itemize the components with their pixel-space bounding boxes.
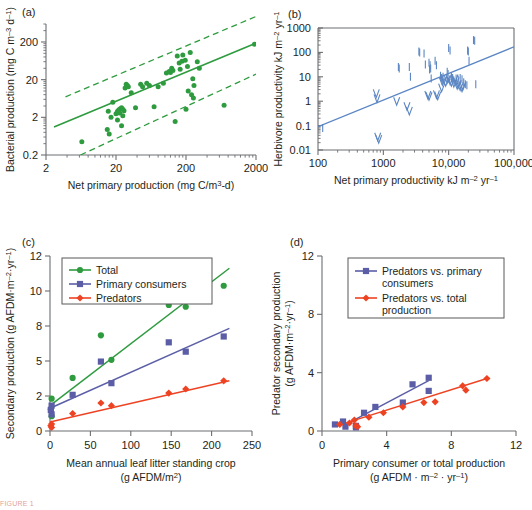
legend-label-c: Primary consumers bbox=[96, 278, 186, 290]
y-axis-title-c: Secondary production (g AFDM·m–2·yr–1) bbox=[4, 248, 16, 439]
y-tick-label-c: 10 bbox=[30, 285, 42, 297]
y-tick-label-c: 2 bbox=[36, 390, 42, 402]
x-tick-label-d: 8 bbox=[448, 439, 454, 451]
x-tick-label-c: 100 bbox=[122, 439, 140, 451]
x-tick-label-c: 200 bbox=[202, 439, 220, 451]
x-tick-label-a: 2000 bbox=[244, 162, 268, 174]
x-tick-label-a: 200 bbox=[177, 162, 195, 174]
y-tick-label-a: 0.2 bbox=[23, 149, 38, 161]
chart-c: 05010015020025002581012TotalPrimary cons… bbox=[0, 228, 266, 500]
y-tick-label-d: 4 bbox=[308, 367, 314, 379]
y-tick-label-b: 1 bbox=[305, 95, 311, 107]
x-tick-label-d: 0 bbox=[319, 439, 325, 451]
panel-letter-a: (a) bbox=[22, 6, 35, 18]
x-tick-label-b: 1000 bbox=[371, 157, 395, 169]
figure-caption: FIGURE 1 bbox=[0, 500, 532, 510]
x-axis-title-c-line1: Mean annual leaf litter standing crop bbox=[66, 457, 235, 469]
chart-d: 0044881212Predators vs. primaryconsumers… bbox=[266, 228, 532, 500]
y-tick-label-a: 2 bbox=[32, 111, 38, 123]
legend-d: Predators vs. primaryconsumersPredators … bbox=[348, 258, 504, 318]
x-axis-title-a: Net primary production (mg C/m3-d) bbox=[68, 179, 234, 191]
panel-letter-d: (d) bbox=[290, 236, 303, 248]
y-tick-label-b: 0.1 bbox=[296, 120, 311, 132]
legend-label-c: Predators bbox=[96, 292, 142, 304]
panel-d: 0044881212Predators vs. primaryconsumers… bbox=[266, 228, 532, 500]
chart-b: 100100010,000100,00010001001010.10.01(b)… bbox=[266, 0, 532, 228]
x-axis-title-d-line2: (g AFDM · m–2 · yr–1) bbox=[370, 471, 468, 483]
y-tick-label-c: 8 bbox=[36, 320, 42, 332]
y-axis-title-d-line2: (g AFDM·m–2·yr–1) bbox=[283, 300, 295, 386]
y-tick-label-b: 1000 bbox=[287, 22, 311, 34]
regression-line-b bbox=[318, 47, 514, 127]
x-tick-label-b: 100 bbox=[309, 157, 327, 169]
y-tick-label-a: 200 bbox=[20, 36, 38, 48]
y-axis-title-b: Herbivore productivity kJ m–2 yr–1 bbox=[272, 11, 284, 166]
legend-label-d-line2: consumers bbox=[382, 277, 433, 289]
x-tick-label-c: 50 bbox=[84, 439, 96, 451]
x-axis-title-d-line1: Primary consumer or total production bbox=[333, 457, 505, 469]
y-tick-label-d: 0 bbox=[308, 425, 314, 437]
y-tick-label-d: 8 bbox=[308, 308, 314, 320]
legend-label-c: Total bbox=[96, 264, 118, 276]
confidence-band-a bbox=[80, 74, 256, 155]
y-tick-label-c: 12 bbox=[30, 250, 42, 262]
regression-line-a bbox=[54, 44, 254, 127]
panel-a: 22020020002002020.2(a)Net primary produc… bbox=[0, 0, 266, 228]
y-tick-label-a: 20 bbox=[26, 74, 38, 86]
legend-c: TotalPrimary consumersPredators bbox=[62, 258, 212, 304]
panel-letter-b: (b) bbox=[288, 8, 301, 20]
panel-b: 100100010,000100,00010001001010.10.01(b)… bbox=[266, 0, 532, 228]
x-tick-label-b: 100,000 bbox=[494, 157, 532, 169]
legend-label-d-line2: production bbox=[382, 304, 431, 316]
figure-panel-grid: 22020020002002020.2(a)Net primary produc… bbox=[0, 0, 532, 510]
y-tick-label-b: 0.01 bbox=[290, 144, 311, 156]
regression-line-c bbox=[50, 328, 229, 408]
x-tick-label-a: 2 bbox=[43, 162, 49, 174]
x-tick-label-d: 12 bbox=[510, 439, 522, 451]
x-axis-title-c-line2: (g AFDM/m2) bbox=[121, 471, 182, 483]
y-axis-title-a: Bacterial production (mg C m–3 d–1) bbox=[4, 7, 16, 172]
legend-label-d-line1: Predators vs. total bbox=[382, 292, 467, 304]
x-tick-label-c: 0 bbox=[47, 439, 53, 451]
data-symbol-v bbox=[394, 97, 400, 105]
y-tick-label-d: 12 bbox=[302, 250, 314, 262]
x-tick-label-a: 20 bbox=[110, 162, 122, 174]
x-tick-label-c: 150 bbox=[162, 439, 180, 451]
x-tick-label-b: 10,000 bbox=[432, 157, 466, 169]
y-axis-title-d-line1: Predator secondary production bbox=[270, 272, 282, 416]
x-tick-label-d: 4 bbox=[384, 439, 390, 451]
chart-a: 22020020002002020.2(a)Net primary produc… bbox=[0, 0, 266, 228]
legend-label-d-line1: Predators vs. primary bbox=[382, 265, 483, 277]
confidence-band-a bbox=[66, 16, 256, 96]
y-tick-label-c: 0 bbox=[36, 425, 42, 437]
y-tick-label-b: 10 bbox=[299, 71, 311, 83]
y-tick-label-c: 5 bbox=[36, 355, 42, 367]
y-tick-label-b: 100 bbox=[293, 46, 311, 58]
panel-letter-c: (c) bbox=[22, 236, 35, 248]
x-axis-title-b: Net primary productivity kJ m–2 yr–1 bbox=[334, 174, 498, 186]
regression-line-c bbox=[50, 381, 229, 422]
panel-c: 05010015020025002581012TotalPrimary cons… bbox=[0, 228, 266, 500]
x-tick-label-c: 250 bbox=[243, 439, 261, 451]
